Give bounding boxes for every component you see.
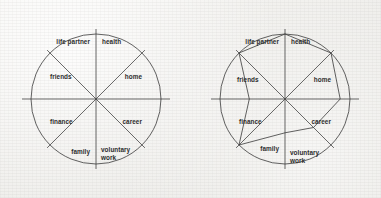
- right-label-friends: friends: [237, 76, 259, 83]
- left-label-life-partner: life partner: [56, 38, 90, 46]
- right-label-life-partner: life partner: [245, 38, 279, 46]
- right-label-finance: finance: [239, 118, 262, 125]
- left-label-voluntary-work-line1: voluntary: [101, 146, 131, 154]
- right-label-voluntary-work-line2: work: [289, 157, 306, 164]
- right-label-family: family: [260, 145, 279, 153]
- right-label-career: career: [312, 118, 332, 125]
- right-wheel-rating-polygon: [239, 34, 340, 145]
- left-label-finance: finance: [50, 118, 73, 125]
- left-label-friends: friends: [50, 73, 72, 80]
- left-label-home: home: [125, 73, 143, 80]
- right-wheel-panel: life partner health home career voluntar…: [211, 29, 359, 169]
- left-label-family: family: [71, 148, 90, 156]
- left-label-career: career: [123, 118, 143, 125]
- figure-stage: life partner health home career voluntar…: [0, 0, 381, 198]
- left-label-voluntary-work-line2: work: [100, 154, 117, 161]
- left-label-health: health: [102, 38, 121, 45]
- left-wheel-panel: life partner health home career voluntar…: [22, 29, 170, 169]
- right-label-health: health: [291, 38, 310, 45]
- right-label-home: home: [314, 76, 332, 83]
- right-label-voluntary-work-line1: voluntary: [290, 149, 320, 157]
- wheel-of-life-figure: life partner health home career voluntar…: [0, 0, 381, 198]
